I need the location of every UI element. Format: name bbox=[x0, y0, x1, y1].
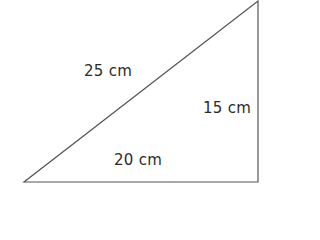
base-label: 20 cm bbox=[114, 153, 162, 168]
vertical-side-label: 15 cm bbox=[203, 101, 251, 116]
hypotenuse-label: 25 cm bbox=[84, 64, 132, 79]
